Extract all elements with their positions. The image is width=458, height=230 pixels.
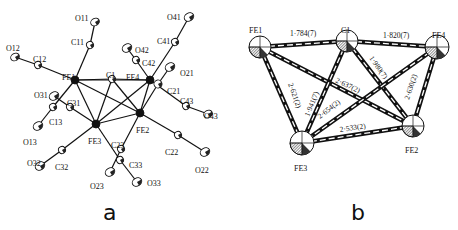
atom-c32 xyxy=(57,145,67,155)
atom-fe1 xyxy=(249,36,271,58)
atom-fe2 xyxy=(136,109,144,117)
atom-o13 xyxy=(32,120,45,132)
atom-label-c42: C42 xyxy=(142,59,155,68)
atom-label-fe2: FE2 xyxy=(405,146,418,155)
bond-fe1-c11 xyxy=(75,45,90,80)
bond-c1-fe4 xyxy=(347,41,437,47)
bond-fe1-fe2 xyxy=(260,47,413,126)
atom-label-o43: O43 xyxy=(204,112,218,121)
atom-o23 xyxy=(104,166,117,178)
atom-o11 xyxy=(89,17,100,28)
panel-a-atom-labels: FE1C1FE4FE2FE3C11O11C12O12C41O41C42O42O2… xyxy=(6,13,218,191)
atom-label-c1: C1 xyxy=(341,26,350,35)
atom-label-c12: C12 xyxy=(33,55,46,64)
atom-o33 xyxy=(131,176,144,188)
atom-label-o42: O42 xyxy=(135,46,149,55)
atom-label-fe1: FE1 xyxy=(249,26,262,35)
atom-label-o12: O12 xyxy=(6,44,20,53)
atom-fe3 xyxy=(92,120,100,128)
bond-fe4-fe2 xyxy=(140,80,150,113)
atom-o41 xyxy=(183,11,196,23)
atom-c41 xyxy=(170,37,180,47)
atom-label-o21: O21 xyxy=(180,69,194,78)
atom-label-c11: C11 xyxy=(71,38,84,47)
atom-label-c31: C31 xyxy=(67,99,80,108)
atom-label-c33: C33 xyxy=(129,161,142,170)
atom-label-fe4: FE4 xyxy=(432,31,445,40)
atom-fe3 xyxy=(290,131,314,155)
atom-label-o32: O32 xyxy=(27,159,41,168)
atom-label-o22: O22 xyxy=(195,166,209,175)
panel-b-letter: b xyxy=(351,200,365,225)
atom-c11 xyxy=(85,40,95,50)
atom-label-c1: C1 xyxy=(106,71,115,80)
atom-label-o23: O23 xyxy=(90,182,104,191)
atom-fe4 xyxy=(146,76,154,84)
bond-distance-c1-fe2: 1·980(7) xyxy=(367,54,390,81)
bond-distance-fe1-c1: 1·784(7) xyxy=(290,29,317,38)
panel-a-letter: a xyxy=(103,200,116,225)
atom-label-o13: O13 xyxy=(23,138,37,147)
bond-c22-o22 xyxy=(178,135,205,152)
atom-c42 xyxy=(131,55,141,65)
atom-label-fe4: FE4 xyxy=(126,73,139,82)
atom-label-fe1: FE1 xyxy=(62,73,75,82)
atom-o42 xyxy=(121,42,134,54)
atom-label-c21: C21 xyxy=(167,87,180,96)
atom-c33 xyxy=(115,155,125,165)
atom-label-c22: C22 xyxy=(165,148,178,157)
bond-fe2-c21 xyxy=(140,84,158,113)
atom-o21 xyxy=(164,61,177,73)
atom-o12 xyxy=(9,52,20,63)
atom-label-fe3: FE3 xyxy=(294,164,307,173)
bond-distance-fe4-fe2: 2·630(2) xyxy=(402,72,419,100)
atom-label-c43: C43 xyxy=(180,97,193,106)
atom-label-o33: O33 xyxy=(147,179,161,188)
atom-label-c41: C41 xyxy=(157,37,170,46)
atom-label-fe3: FE3 xyxy=(88,137,101,146)
atom-c22 xyxy=(173,130,183,140)
atom-label-c32: C32 xyxy=(55,163,68,172)
atom-label-c23: C23 xyxy=(111,141,124,150)
bond-distance-fe1-fe3: 2·621(2) xyxy=(286,82,304,110)
panel-a-ortep-diagram: FE1C1FE4FE2FE3C11O11C12O12C41O41C42O42O2… xyxy=(6,11,218,225)
atom-label-fe2: FE2 xyxy=(136,126,149,135)
atom-label-o31: O31 xyxy=(34,91,48,100)
panel-b-core-diagram: 1·784(7)1·820(7)1·980(7)2·637(2)2·630(2)… xyxy=(249,26,449,225)
atom-o22 xyxy=(199,146,212,158)
atom-fe2 xyxy=(402,115,424,137)
bond-fe1-c1 xyxy=(260,41,347,47)
atom-label-o41: O41 xyxy=(167,13,181,22)
atom-label-o11: O11 xyxy=(75,14,88,23)
crystal-structure-figure: FE1C1FE4FE2FE3C11O11C12O12C41O41C42O42O2… xyxy=(0,0,458,230)
atom-label-c13: C13 xyxy=(49,118,62,127)
bond-distance-c1-fe4: 1·820(7) xyxy=(383,31,410,40)
